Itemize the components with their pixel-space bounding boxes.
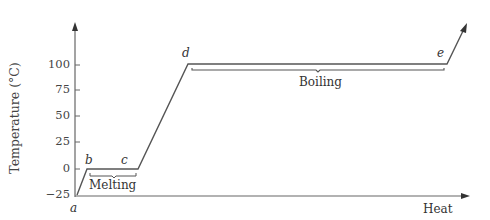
boiling-brace — [192, 68, 444, 72]
x-axis-label: Heat — [423, 203, 453, 215]
y-axis-arrow-icon — [72, 22, 78, 31]
y-tick-label: 75 — [40, 84, 70, 96]
y-tick-label: 25 — [40, 136, 70, 148]
point-label-e: e — [437, 47, 444, 59]
y-tick-label: 100 — [40, 59, 70, 71]
point-label-a: a — [70, 202, 77, 214]
y-tick-label: −25 — [40, 189, 70, 201]
heating-curve-line — [77, 31, 463, 195]
y-ticks — [75, 65, 80, 169]
y-tick-label: 50 — [40, 110, 70, 122]
point-label-d: d — [182, 47, 190, 59]
boiling-label: Boiling — [299, 76, 342, 88]
y-tick-label: 0 — [40, 163, 70, 175]
point-label-c: c — [121, 154, 128, 166]
heating-curve-chart: Temperature (°C) 100 75 50 25 0 −25 a b … — [0, 0, 490, 220]
curve-arrow-icon — [460, 23, 467, 33]
chart-plot — [0, 0, 490, 220]
melting-label: Melting — [89, 179, 136, 191]
y-axis-label: Temperature (°C) — [7, 62, 22, 173]
x-axis-arrow-icon — [461, 193, 470, 199]
point-label-b: b — [85, 154, 93, 166]
